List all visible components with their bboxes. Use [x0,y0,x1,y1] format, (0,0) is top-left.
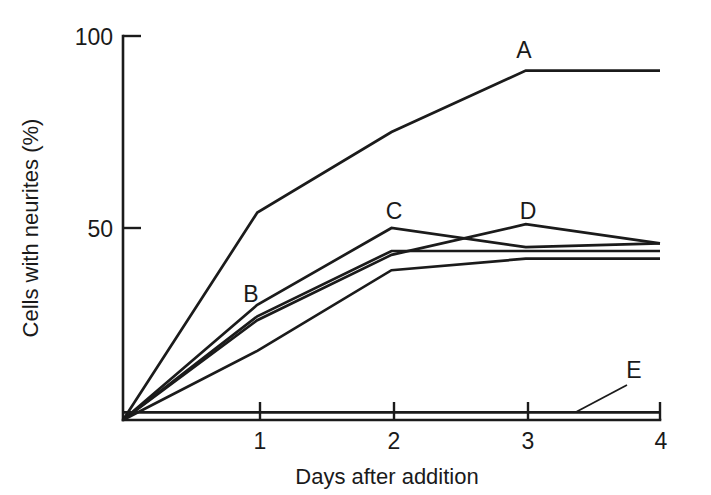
series-label-B: B [243,281,258,307]
series-line-C [123,228,660,420]
y-tick-label-100: 100 [75,24,113,50]
series-line-B [123,251,660,420]
series-line-D [123,224,660,420]
x-tick-label-2: 2 [388,428,401,454]
y-axis-title: Cells with neurites (%) [18,119,43,338]
series-leader-line-E [576,385,627,412]
x-tick-label-3: 3 [522,428,535,454]
chart-figure: 100 50 1 2 3 4 Days after addition Cells… [0,0,711,495]
line-chart: 100 50 1 2 3 4 Days after addition Cells… [0,0,711,495]
x-tick-label-4: 4 [655,428,668,454]
series-label-D: D [520,198,537,224]
series-line-mid [123,259,660,420]
series-label-C: C [386,198,403,224]
x-tick-label-1: 1 [254,428,267,454]
series-label-A: A [516,37,532,63]
y-tick-label-50: 50 [87,216,113,242]
x-axis-title: Days after addition [295,464,478,489]
series-label-E: E [626,357,641,383]
